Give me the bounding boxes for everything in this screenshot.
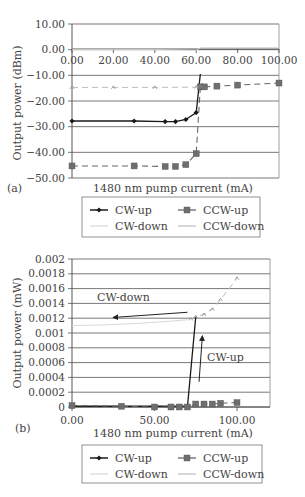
- x-tick-label: 60.00: [181, 54, 211, 66]
- x-tick-label: 100.00: [219, 414, 256, 426]
- y-tick-label: 0.0006: [28, 356, 65, 368]
- chart-a-axes: 10.000.00−10.00−20.00−30.00−40.00−50.000…: [26, 18, 297, 184]
- chart-b-gridlines: [72, 259, 270, 407]
- chart-a-ylabel: Output power (dBm): [11, 45, 24, 160]
- x-tick-label: 100.00: [261, 54, 298, 66]
- legend-label: CCW-up: [203, 204, 248, 217]
- legend-label: CW-down: [115, 220, 168, 233]
- x-tick-label: 20.00: [98, 54, 128, 66]
- y-tick-label: 0.0018: [28, 267, 65, 279]
- y-tick-label: 0.0016: [28, 282, 65, 294]
- x-tick-label: 0.00: [60, 54, 83, 66]
- y-tick-label: 10.00: [35, 18, 65, 30]
- y-tick-label: −20.00: [26, 95, 65, 107]
- x-tick-label: 0.00: [60, 414, 83, 426]
- legend-label: CW-down: [115, 468, 168, 481]
- x-tick-label: 80.00: [223, 54, 253, 66]
- chart-b-xlabel: 1480 nm pump current (mA): [93, 427, 253, 440]
- chart-a-legend: CW-upCCW-upCW-downCCW-down: [82, 197, 264, 237]
- chart-b-axes: 0.0020.00180.00160.00140.00120.0010.0008…: [28, 253, 270, 427]
- y-tick-label: −10.00: [26, 69, 65, 81]
- y-tick-label: −40.00: [26, 146, 65, 158]
- figure: 10.000.00−10.00−20.00−30.00−40.00−50.000…: [0, 0, 305, 497]
- legend-label: CCW-down: [203, 220, 264, 233]
- chart-a: 10.000.00−10.00−20.00−30.00−40.00−50.000…: [7, 18, 297, 238]
- y-tick-label: 0.0012: [28, 312, 65, 324]
- x-tick-label: 50.00: [139, 414, 169, 426]
- series-ccw-down: [189, 277, 239, 321]
- y-tick-label: 0.0014: [28, 297, 65, 309]
- series-ccw-up: [69, 80, 282, 169]
- y-tick-label: −30.00: [26, 120, 65, 132]
- legend-label: CCW-up: [203, 452, 248, 465]
- legend-label: CW-up: [115, 452, 152, 465]
- chart-a-panel-label: (a): [7, 182, 22, 195]
- series-cw-down: [72, 320, 188, 326]
- annotation-cw-up: CW-up: [207, 351, 244, 364]
- legend-label: CCW-down: [203, 468, 264, 481]
- chart-b-legend: CW-upCCW-upCW-downCCW-down: [82, 445, 264, 483]
- y-tick-label: −50.00: [26, 172, 65, 184]
- chart-a-gridlines: [72, 24, 279, 178]
- series-ccw-up: [69, 400, 240, 410]
- y-tick-label: 0.002: [35, 253, 65, 265]
- chart-b-annotations: CW-downCW-up: [97, 291, 244, 382]
- y-tick-label: 0.0004: [28, 371, 65, 383]
- y-tick-label: 0: [58, 401, 65, 413]
- chart-b-ylabel: Output power (mW): [11, 277, 24, 388]
- chart-b-series: [69, 277, 240, 410]
- series-ccw-down: [70, 85, 202, 89]
- legend-label: CW-up: [115, 204, 152, 217]
- y-tick-label: 0.0008: [28, 341, 65, 353]
- y-tick-label: 0.001: [35, 327, 65, 339]
- chart-a-xlabel: 1480 nm pump current (mA): [93, 182, 253, 195]
- annotation-cw-down: CW-down: [97, 291, 150, 304]
- y-tick-label: 0.0002: [28, 386, 65, 398]
- x-tick-label: 40.00: [140, 54, 170, 66]
- chart-b: 0.0020.00180.00160.00140.00120.0010.0008…: [11, 253, 270, 484]
- series-cw-up: [69, 74, 200, 124]
- chart-b-panel-label: (b): [15, 422, 31, 435]
